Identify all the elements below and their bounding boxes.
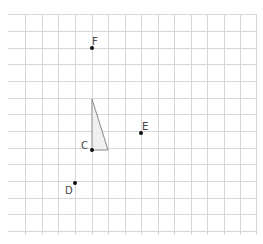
label-point-f: F (92, 37, 98, 47)
right-triangle (92, 99, 108, 150)
point-d-dot (73, 181, 77, 185)
point-c-dot (90, 148, 94, 152)
label-point-e: E (142, 122, 148, 132)
grid-diagram (0, 0, 263, 244)
label-point-d: D (65, 186, 73, 196)
grid-lines (8, 14, 257, 235)
label-point-c: C (81, 141, 88, 151)
